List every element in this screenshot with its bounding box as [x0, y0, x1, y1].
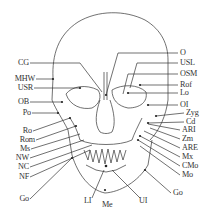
label-o: O	[180, 49, 186, 57]
label-zm: Zm	[182, 135, 193, 143]
label-usl: USL	[180, 59, 195, 67]
label-mo: Mo	[182, 171, 193, 179]
label-cmo: CMo	[182, 162, 198, 170]
label-go-left: Go	[0, 195, 29, 203]
label-go-right: Go	[173, 189, 183, 197]
label-usr: USR	[0, 84, 33, 92]
label-cg: CG	[0, 59, 29, 67]
left-orbit	[66, 87, 100, 109]
label-osm: OSM	[180, 70, 197, 78]
label-rom: Rom	[0, 136, 35, 144]
label-mx: Mx	[182, 153, 193, 161]
label-ob: OB	[0, 98, 29, 106]
label-zyg: Zyg	[186, 109, 199, 117]
label-are: ARE	[182, 144, 198, 152]
label-ari: ARI	[182, 126, 196, 134]
label-ro: Ro	[0, 127, 32, 135]
label-ui: UI	[139, 197, 147, 205]
label-nw: NW	[0, 154, 29, 162]
teeth	[84, 149, 126, 164]
label-me: Me	[102, 201, 113, 209]
skull-outline	[53, 13, 168, 140]
label-ms: Ms	[0, 145, 30, 153]
label-li: LI	[84, 197, 91, 205]
label-po: Po	[0, 109, 31, 117]
nasal-cavity	[96, 100, 114, 134]
label-nf: NF	[0, 173, 29, 181]
label-nc: NC	[0, 163, 29, 171]
label-mhw: MHW	[0, 75, 35, 83]
right-orbit	[112, 86, 146, 108]
label-lo: Lo	[180, 89, 189, 97]
